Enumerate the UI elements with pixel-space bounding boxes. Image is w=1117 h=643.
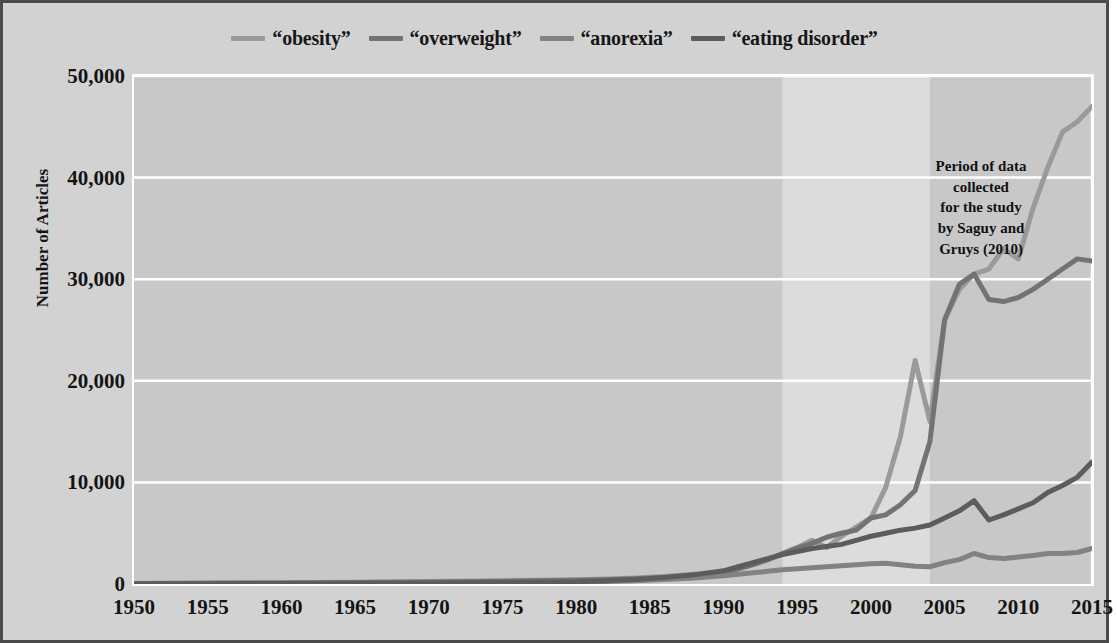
x-tick-label: 2005 (910, 595, 980, 620)
chart-legend: “obesity” “overweight” “anorexia” “eatin… (3, 27, 1106, 50)
annotation-line4: by Saguy and (920, 218, 1042, 239)
study-period-annotation: Period of datacollectedfor the studyby S… (920, 156, 1042, 259)
x-tick-label: 2000 (836, 595, 906, 620)
legend-swatch-anorexia (540, 36, 574, 41)
legend-item-eating-disorder: “eating disorder” (691, 27, 878, 50)
legend-item-obesity: “obesity” (231, 27, 350, 50)
annotation-line1: Period of data (920, 156, 1042, 177)
y-tick-label: 50,000 (29, 64, 125, 89)
annotation-line3: for the study (920, 197, 1042, 218)
legend-label-obesity: “obesity” (272, 27, 350, 50)
chart-lines-svg (134, 76, 1092, 584)
annotation-line5: Gruys (2010) (920, 239, 1042, 260)
x-tick-label: 1990 (689, 595, 759, 620)
x-tick-label: 1950 (99, 595, 169, 620)
data-line-overweight (134, 259, 1092, 584)
y-tick-label: 10,000 (29, 470, 125, 495)
x-tick-label: 2015 (1057, 595, 1117, 620)
y-tick-label: 30,000 (29, 267, 125, 292)
legend-label-eating-disorder: “eating disorder” (732, 27, 878, 50)
legend-item-anorexia: “anorexia” (540, 27, 673, 50)
x-tick-label: 1985 (615, 595, 685, 620)
y-tick-label: 20,000 (29, 368, 125, 393)
legend-swatch-eating-disorder (691, 36, 725, 41)
legend-label-overweight: “overweight” (410, 27, 522, 50)
legend-swatch-overweight (369, 36, 403, 41)
x-axis-tick-labels: 1950195519601965197019751980198519901995… (132, 595, 1094, 627)
x-tick-label: 1975 (467, 595, 537, 620)
x-tick-label: 2010 (983, 595, 1053, 620)
x-tick-label: 1995 (762, 595, 832, 620)
legend-item-overweight: “overweight” (369, 27, 522, 50)
plot-area: Period of datacollectedfor the studyby S… (132, 74, 1094, 586)
x-tick-label: 1955 (173, 595, 243, 620)
data-line-eating-disorder (134, 462, 1092, 584)
annotation-line2: collected (920, 177, 1042, 198)
x-tick-label: 1960 (246, 595, 316, 620)
study-period-band (782, 76, 929, 584)
x-tick-label: 1965 (320, 595, 390, 620)
y-tick-label: 40,000 (29, 165, 125, 190)
x-tick-label: 1970 (394, 595, 464, 620)
y-tick-label: 0 (29, 572, 125, 597)
legend-label-anorexia: “anorexia” (581, 27, 673, 50)
legend-swatch-obesity (231, 36, 265, 41)
y-axis-tick-labels: 010,00020,00030,00040,00050,000 (21, 3, 125, 643)
x-tick-label: 1980 (541, 595, 611, 620)
